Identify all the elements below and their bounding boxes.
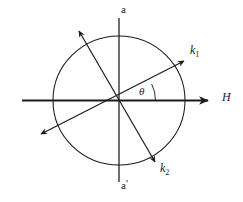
vector-label-k2-subscript: 2 [165,168,169,177]
diagram-canvas: a a' H k1 k2 θ [0,0,243,202]
diagram-vector-layer [0,0,243,202]
axis-label-a-prime-mark: ' [126,177,128,189]
axis-label-h: H [222,91,231,103]
angle-label-theta: θ [139,86,144,97]
vector-k1-axis [41,61,184,134]
axis-label-a: a [121,4,126,15]
vector-label-k1-subscript: 1 [195,50,199,59]
axis-label-a-prime: a' [121,178,128,191]
angle-arc [152,84,156,101]
vector-label-k1: k1 [190,44,199,59]
vector-label-k2: k2 [160,162,169,177]
